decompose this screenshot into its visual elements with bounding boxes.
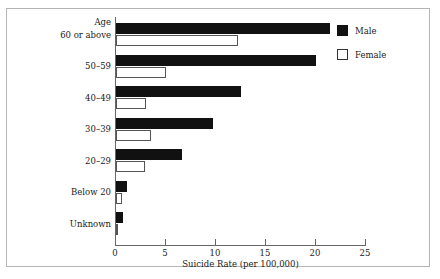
x-tick-label: 20 <box>310 248 321 258</box>
x-tick-label: 0 <box>112 248 117 258</box>
x-axis-line <box>115 245 366 246</box>
chart-figure: Age 0510152025 60 or above50–5940–4930–3… <box>6 8 430 267</box>
bar-male <box>116 23 330 34</box>
x-tick <box>365 239 366 245</box>
bar-male <box>116 212 123 223</box>
bar-female <box>116 224 118 235</box>
bar-female <box>116 130 151 141</box>
bar-female <box>116 98 146 109</box>
bar-female <box>116 67 166 78</box>
category-label: 20–29 <box>31 156 111 166</box>
x-tick-label: 15 <box>260 248 271 258</box>
bar-male <box>116 86 241 97</box>
bar-male <box>116 118 213 129</box>
category-label: 60 or above <box>31 30 111 40</box>
x-tick <box>115 239 116 245</box>
legend-swatch-male-icon <box>337 25 348 36</box>
bar-male <box>116 149 182 160</box>
chart-legend: Male Female <box>337 25 386 73</box>
x-tick <box>165 239 166 245</box>
legend-swatch-female-icon <box>337 49 348 60</box>
bar-female <box>116 35 238 46</box>
legend-label-male: Male <box>355 26 377 36</box>
x-tick-label: 25 <box>360 248 371 258</box>
bar-female <box>116 161 145 172</box>
x-axis-label: Suicide Rate (per 100,000) <box>115 259 366 269</box>
bar-female <box>116 193 122 204</box>
plot-area: Age 0510152025 60 or above50–5940–4930–3… <box>7 9 431 268</box>
x-tick <box>315 239 316 245</box>
legend-item-male: Male <box>337 25 386 36</box>
bar-male <box>116 55 316 66</box>
category-label: Below 20 <box>31 187 111 197</box>
legend-label-female: Female <box>355 50 386 60</box>
bar-male <box>116 181 127 192</box>
category-label: Unknown <box>31 219 111 229</box>
legend-item-female: Female <box>337 49 386 60</box>
category-label: 40–49 <box>31 93 111 103</box>
x-tick-label: 10 <box>210 248 221 258</box>
x-tick <box>215 239 216 245</box>
category-label: 50–59 <box>31 61 111 71</box>
category-label: 30–39 <box>31 124 111 134</box>
x-tick-label: 5 <box>162 248 167 258</box>
y-axis-title: Age <box>47 17 111 27</box>
x-tick <box>265 239 266 245</box>
